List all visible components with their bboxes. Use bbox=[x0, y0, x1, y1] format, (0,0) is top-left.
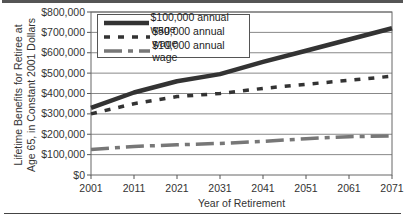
solid-line-swatch-icon bbox=[104, 16, 149, 30]
y-axis-label: Lifetime Benefits for Retiree at Age 65,… bbox=[2, 20, 48, 170]
x-tick-label: 2031 bbox=[208, 182, 232, 194]
series-line-2 bbox=[91, 136, 392, 150]
y-axis-label-line-2: Age 65, in Constant 2001 Dollars bbox=[25, 18, 38, 172]
x-tick-label: 2051 bbox=[294, 182, 318, 194]
x-tick-label: 2061 bbox=[337, 182, 361, 194]
y-axis-label-line-1: Lifetime Benefits for Retiree at bbox=[12, 18, 25, 172]
legend-label: $10,000 annual wage bbox=[152, 39, 249, 63]
x-tick-label: 2011 bbox=[123, 182, 146, 194]
legend-item-10k: $10,000 annual wage bbox=[98, 44, 249, 58]
y-tick-label: $0 bbox=[73, 169, 85, 181]
legend: $100,000 annual wage $50,000 annual wage… bbox=[97, 14, 250, 58]
x-axis-label: Year of Retirement bbox=[91, 197, 392, 209]
bottom-rule bbox=[4, 213, 401, 214]
x-tick-label: 2001 bbox=[79, 182, 103, 194]
x-tick-label: 2021 bbox=[165, 182, 189, 194]
x-tick-label: 2041 bbox=[251, 182, 275, 194]
series-line-1 bbox=[91, 76, 392, 114]
dashed-line-swatch-icon bbox=[104, 30, 150, 44]
y-tick-label: $800,000 bbox=[41, 6, 85, 18]
dash-dot-line-swatch-icon bbox=[104, 44, 150, 58]
x-tick-label: 2071 bbox=[380, 182, 404, 194]
